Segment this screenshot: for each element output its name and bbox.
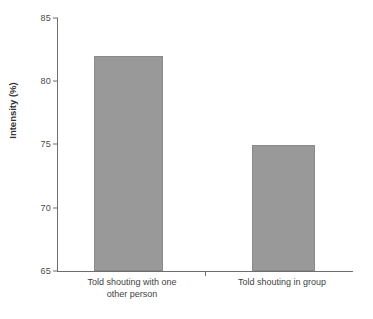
- bars-layer: [57, 18, 353, 271]
- y-axis-title: Intensity (%): [7, 61, 18, 161]
- x-axis-label-category-0-line-1: Told shouting with one: [58, 277, 206, 289]
- x-axis-label-category-1-line-1: Told shouting in group: [208, 277, 356, 289]
- bar-told-shouting-in-group[interactable]: [252, 145, 315, 272]
- y-tick-label-65: 65: [41, 266, 51, 276]
- bar-chart-figure: Intensity (%) 85 80 75 70 65 Told shouti…: [0, 0, 373, 319]
- x-axis-label-category-1: Told shouting in group: [208, 277, 356, 289]
- y-tick-label-75: 75: [41, 139, 51, 149]
- x-tick-mark-separator: [205, 271, 206, 276]
- bar-told-shouting-with-one-other-person[interactable]: [94, 56, 163, 271]
- y-tick-label-85: 85: [41, 13, 51, 23]
- x-axis-label-category-0: Told shouting with one other person: [58, 277, 206, 300]
- x-axis-label-category-0-line-2: other person: [58, 289, 206, 301]
- y-tick-label-80: 80: [41, 76, 51, 86]
- y-tick-label-70: 70: [41, 203, 51, 213]
